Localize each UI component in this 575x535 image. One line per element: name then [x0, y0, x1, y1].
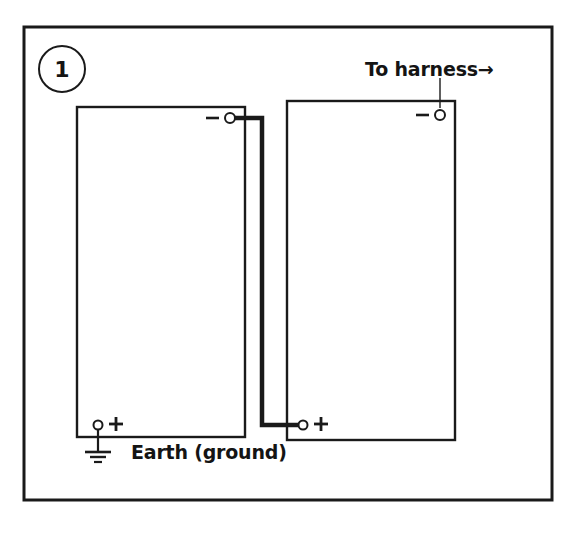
right-battery-positive-terminal [299, 421, 308, 430]
diagram-canvas [0, 0, 575, 535]
left-battery-negative-terminal [225, 113, 235, 123]
to-harness-label: To harness→ [365, 58, 494, 80]
left-battery-positive-sign-icon [109, 417, 123, 431]
step-number-badge: 1 [38, 45, 86, 93]
wiring-diagram: 1 To harness→ Earth (ground) [0, 0, 575, 535]
negative-to-positive-jumper-wire [230, 118, 303, 425]
left-battery-body [77, 107, 245, 437]
earth-ground-symbol-icon [85, 429, 111, 462]
right-battery-negative-terminal [435, 110, 445, 120]
right-battery-positive-sign-icon [314, 417, 328, 431]
earth-ground-label: Earth (ground) [131, 441, 287, 463]
left-battery-positive-terminal [94, 421, 103, 430]
right-battery-body [287, 101, 455, 440]
